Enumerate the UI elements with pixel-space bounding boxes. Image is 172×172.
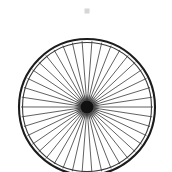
hub-core — [81, 101, 94, 114]
bicycle-wheel-illustration — [0, 0, 172, 172]
image-canvas: Bicycle wheel — [0, 0, 172, 172]
